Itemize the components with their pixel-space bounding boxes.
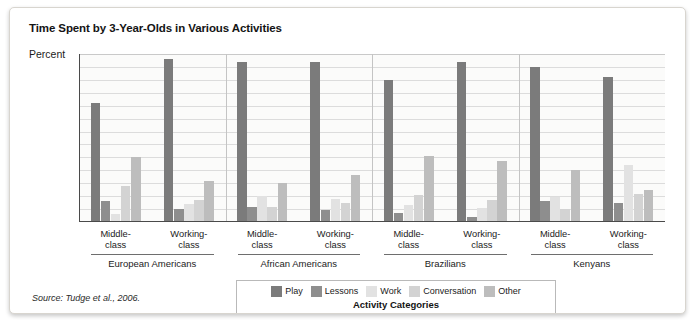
- legend-item-other: Other: [484, 286, 521, 297]
- bar-play: [530, 67, 540, 222]
- class-label: Working-class: [295, 229, 375, 250]
- bar-conversation: [194, 200, 204, 222]
- group-separator: [372, 54, 373, 222]
- bar-lessons: [540, 201, 550, 222]
- culture-label: African Americans: [219, 258, 379, 269]
- legend-item-play: Play: [271, 286, 303, 297]
- bar-other: [644, 190, 654, 222]
- bar-conversation: [341, 203, 351, 222]
- bar-play: [91, 103, 101, 222]
- bar-conversation: [121, 186, 131, 222]
- bar-lessons: [101, 201, 111, 222]
- bar-work: [331, 199, 341, 222]
- class-label-line1: Middle-: [515, 229, 595, 240]
- source-note: Source: Tudge et al., 2006.: [32, 293, 140, 303]
- bar-conversation: [414, 195, 424, 222]
- legend-item-lessons: Lessons: [311, 286, 359, 297]
- bar-lessons: [247, 207, 257, 223]
- culture-rule: [531, 254, 654, 255]
- legend-swatch-work: [366, 286, 377, 297]
- class-label-line1: Working-: [442, 229, 522, 240]
- bar-lessons: [614, 203, 624, 222]
- bar-work: [624, 165, 634, 222]
- group-separator: [519, 54, 520, 222]
- class-label: Middle-class: [222, 229, 302, 250]
- bar-other: [424, 156, 434, 222]
- chart-title: Time Spent by 3-Year-Olds in Various Act…: [29, 22, 282, 34]
- legend-label: Conversation: [423, 286, 476, 296]
- bar-work: [550, 197, 560, 222]
- bar-work: [257, 196, 267, 222]
- bar-other: [204, 181, 214, 222]
- bar-conversation: [634, 194, 644, 222]
- figure-panel: Time Spent by 3-Year-Olds in Various Act…: [9, 7, 686, 314]
- culture-label: European Americans: [72, 258, 232, 269]
- culture-label: Kenyans: [512, 258, 672, 269]
- bar-other: [497, 161, 507, 222]
- legend-label: Play: [285, 286, 303, 296]
- legend-swatch-play: [271, 286, 282, 297]
- class-label: Working-class: [149, 229, 229, 250]
- bar-other: [571, 170, 581, 222]
- bar-play: [384, 80, 394, 222]
- bar-other: [351, 175, 361, 222]
- bar-play: [457, 62, 467, 222]
- plot-area: [79, 54, 665, 222]
- bar-play: [310, 62, 320, 222]
- class-label-line1: Middle-: [222, 229, 302, 240]
- class-label-line2: class: [222, 240, 302, 251]
- bar-other: [131, 157, 141, 222]
- chart-legend: PlayLessonsWorkConversationOther Activit…: [236, 280, 556, 314]
- legend-label: Other: [498, 286, 521, 296]
- bar-conversation: [267, 207, 277, 223]
- legend-title: Activity Categories: [237, 299, 555, 310]
- x-axis-line: [79, 221, 665, 222]
- group-separator: [226, 54, 227, 222]
- legend-swatch-lessons: [311, 286, 322, 297]
- class-label-line1: Working-: [295, 229, 375, 240]
- legend-swatch-other: [484, 286, 495, 297]
- class-label-line2: class: [369, 240, 449, 251]
- class-label: Working-class: [442, 229, 522, 250]
- bar-conversation: [487, 200, 497, 222]
- legend-label: Lessons: [325, 286, 359, 296]
- bar-work: [184, 204, 194, 222]
- bar-play: [237, 62, 247, 222]
- bar-play: [164, 59, 174, 222]
- bar-play: [603, 77, 613, 222]
- class-label-line2: class: [442, 240, 522, 251]
- class-label-line2: class: [149, 240, 229, 251]
- class-label-line2: class: [515, 240, 595, 251]
- bar-work: [477, 208, 487, 222]
- y-axis-line: [79, 54, 80, 222]
- class-label-line1: Working-: [588, 229, 668, 240]
- bar-other: [278, 183, 288, 222]
- culture-rule: [91, 254, 214, 255]
- legend-swatch-conversation: [409, 286, 420, 297]
- culture-label: Brazilians: [365, 258, 525, 269]
- y-axis-label: Percent: [29, 48, 65, 60]
- class-label-line2: class: [76, 240, 156, 251]
- class-label: Middle-class: [76, 229, 156, 250]
- culture-rule: [238, 254, 361, 255]
- class-label-line1: Working-: [149, 229, 229, 240]
- class-label-line2: class: [588, 240, 668, 251]
- legend-items: PlayLessonsWorkConversationOther: [237, 285, 555, 297]
- legend-item-work: Work: [366, 286, 401, 297]
- class-label-line2: class: [295, 240, 375, 251]
- class-label: Middle-class: [369, 229, 449, 250]
- legend-label: Work: [380, 286, 401, 296]
- bar-work: [404, 205, 414, 222]
- class-label-line1: Middle-: [369, 229, 449, 240]
- class-label: Middle-class: [515, 229, 595, 250]
- class-label-line1: Middle-: [76, 229, 156, 240]
- legend-item-conversation: Conversation: [409, 286, 476, 297]
- culture-rule: [384, 254, 507, 255]
- class-label: Working-class: [588, 229, 668, 250]
